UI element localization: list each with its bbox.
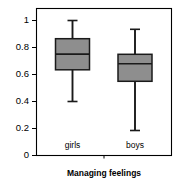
boxplot-chart: 1 0.8 0.6 0.4 0.2 0 bbox=[0, 0, 183, 187]
x-axis-title: Managing feelings bbox=[67, 168, 141, 178]
ytick-label-1: 1 bbox=[24, 14, 29, 25]
category-label-boys: boys bbox=[126, 140, 144, 150]
chart-canvas: 1 0.8 0.6 0.4 0.2 0 bbox=[0, 0, 183, 187]
ytick-label-0.4: 0.4 bbox=[16, 95, 29, 106]
ytick-label-0.6: 0.6 bbox=[16, 68, 29, 79]
box-group-girls bbox=[56, 21, 90, 102]
ytick-label-0.8: 0.8 bbox=[16, 41, 29, 52]
box-group-boys bbox=[118, 29, 152, 130]
category-label-girls: girls bbox=[65, 140, 81, 150]
box-iqr-boys bbox=[118, 54, 152, 81]
ytick-label-0: 0 bbox=[24, 149, 29, 160]
ytick-label-0.2: 0.2 bbox=[16, 122, 29, 133]
